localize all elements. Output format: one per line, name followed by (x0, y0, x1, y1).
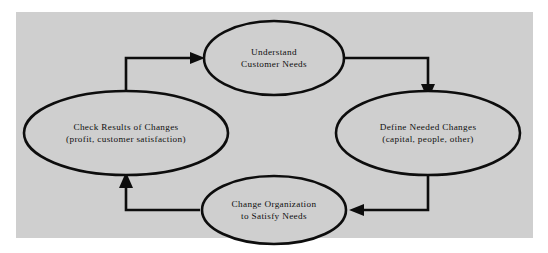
node-change-organization-shape[interactable] (202, 176, 346, 244)
node-define-needed-changes-line1: Define Needed Changes (380, 122, 477, 132)
node-check-results-of-changes-line2: (profit, customer satisfaction) (66, 134, 186, 144)
node-check-results-of-changes-line1: Check Results of Changes (73, 122, 178, 132)
cycle-diagram-canvas: Understand Customer Needs Define Needed … (0, 0, 548, 253)
node-understand-customer-needs-shape[interactable] (204, 21, 344, 95)
node-understand-customer-needs[interactable]: Understand Customer Needs (204, 21, 344, 95)
node-understand-customer-needs-line1: Understand (251, 47, 297, 57)
node-check-results-of-changes-shape[interactable] (24, 91, 228, 175)
node-change-organization[interactable]: Change Organization to Satisfy Needs (202, 176, 346, 244)
node-understand-customer-needs-line2: Customer Needs (241, 59, 307, 69)
node-check-results-of-changes[interactable]: Check Results of Changes (profit, custom… (24, 91, 228, 175)
diagram-figure: Understand Customer Needs Define Needed … (0, 0, 548, 253)
node-change-organization-line1: Change Organization (232, 199, 317, 209)
node-define-needed-changes-line2: (capital, people, other) (382, 134, 474, 144)
node-define-needed-changes-shape[interactable] (336, 91, 520, 175)
node-define-needed-changes[interactable]: Define Needed Changes (capital, people, … (336, 91, 520, 175)
node-change-organization-line2: to Satisfy Needs (241, 211, 307, 221)
